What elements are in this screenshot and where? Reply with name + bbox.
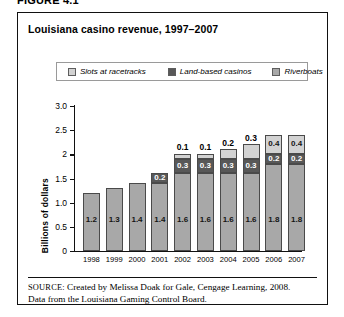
bar-segment-slots [243, 144, 260, 159]
bar-value-label: 1.8 [291, 216, 302, 224]
bar-stack: 1.40.2 [151, 173, 168, 250]
bar-stack: 1.2 [83, 193, 100, 251]
y-tick-label: 2 [62, 149, 67, 159]
bar-stack: 1.60.30.3 [243, 144, 260, 250]
x-tick-label: 2004 [217, 255, 240, 264]
bar-stack: 1.60.30.1 [197, 154, 214, 251]
source-prefix: SOURCE: [28, 283, 65, 292]
bar-segment-land: 0.2 [151, 173, 168, 183]
bar-value-label: 0.3 [200, 162, 211, 170]
bar-stack: 1.80.20.4 [265, 135, 282, 251]
bar-value-label: 1.2 [86, 216, 97, 224]
y-tick-label: 1.0 [55, 198, 67, 208]
bar-group: 1.21.31.41.40.21.60.30.11.60.30.11.60.30… [74, 106, 302, 251]
y-tick-label: 0.5 [55, 222, 67, 232]
bar-segment-riverboats: 1.4 [151, 183, 168, 251]
x-tick-label: 2006 [262, 255, 285, 264]
bar-stack: 1.3 [106, 188, 123, 251]
bar-total-top-label: 0.2 [220, 139, 237, 148]
legend-label-slots: Slots at racetracks [80, 67, 146, 76]
bar-segment-land: 0.3 [243, 159, 260, 174]
bar-segment-slots [197, 154, 214, 159]
bar-total-top-label: 0.3 [243, 134, 260, 143]
x-tick-label: 1998 [80, 255, 103, 264]
bar-stack: 1.80.20.4 [288, 135, 305, 251]
bar-segment-riverboats: 1.8 [265, 164, 282, 251]
bar-value-label: 1.3 [109, 216, 120, 224]
bar-value-label: 0.4 [291, 140, 302, 148]
bar-value-label: 0.3 [245, 162, 256, 170]
bar-value-label: 0.2 [268, 155, 279, 163]
bar-segment-riverboats: 1.2 [83, 193, 100, 251]
x-tick-label: 2001 [148, 255, 171, 264]
bar-total-top-label: 0.1 [197, 143, 214, 152]
legend-item-land-based-casinos: Land-based casinos [168, 67, 252, 76]
x-tick-label: 2002 [171, 255, 194, 264]
x-tick-label: 2007 [285, 255, 308, 264]
bar-segment-slots [220, 149, 237, 159]
bar-value-label: 1.4 [154, 216, 165, 224]
y-axis-title: Billions of dollars [40, 178, 50, 253]
bar-segment-slots [174, 154, 191, 159]
bar-segment-slots: 0.4 [288, 135, 305, 154]
bar-segment-riverboats: 1.3 [106, 188, 123, 251]
chart-legend: Slots at racetracks Land-based casinos R… [56, 62, 308, 81]
bar-stack: 1.60.30.1 [174, 154, 191, 251]
x-tick-label: 2000 [126, 255, 149, 264]
y-tick-label: 0 [62, 246, 67, 256]
bar-value-label: 0.2 [291, 155, 302, 163]
x-tick-label: 2005 [240, 255, 263, 264]
source-divider [28, 277, 317, 278]
figure-root: FIGURE 4.1 Louisiana casino revenue, 199… [0, 0, 344, 317]
bar-segment-land: 0.2 [265, 154, 282, 164]
bar-value-label: 1.6 [245, 216, 256, 224]
bar-value-label: 1.4 [131, 216, 142, 224]
bar-stack: 1.60.30.2 [220, 149, 237, 250]
bar-value-label: 1.6 [200, 216, 211, 224]
bar-value-label: 0.4 [268, 140, 279, 148]
figure-box: Louisiana casino revenue, 1997–2007 Slot… [17, 12, 328, 305]
y-tick-label: 2.5 [55, 125, 67, 135]
y-tick-label: 3.0 [55, 101, 67, 111]
legend-label-land: Land-based casinos [180, 67, 252, 76]
bar-stack: 1.4 [129, 183, 146, 251]
x-axis-line [74, 251, 302, 252]
legend-label-riverboats: Riverboats [284, 67, 322, 76]
legend-item-slots-at-racetracks: Slots at racetracks [68, 67, 146, 76]
bar-segment-riverboats: 1.8 [288, 164, 305, 251]
bar-segment-riverboats: 1.6 [220, 173, 237, 250]
bar-value-label: 0.2 [154, 174, 165, 182]
source-line-2: Data from the Louisiana Gaming Control B… [28, 294, 207, 304]
figure-caption: FIGURE 4.1 [17, 0, 79, 6]
x-tick-label: 1999 [103, 255, 126, 264]
legend-item-riverboats: Riverboats [272, 67, 322, 76]
bar-value-label: 0.3 [223, 162, 234, 170]
legend-swatch-slots-icon [68, 68, 76, 76]
x-axis-labels: 1998199920002001200220032004200520062007 [74, 255, 302, 267]
bar-segment-riverboats: 1.4 [129, 183, 146, 251]
bar-segment-slots: 0.4 [265, 135, 282, 154]
bar-value-label: 1.6 [177, 216, 188, 224]
bar-value-label: 1.8 [268, 216, 279, 224]
bar-value-label: 0.3 [177, 162, 188, 170]
y-tick-label: 1.5 [55, 174, 67, 184]
legend-swatch-land-icon [168, 68, 176, 76]
bar-segment-land: 0.2 [288, 154, 305, 164]
bar-segment-land: 0.3 [197, 159, 214, 174]
bar-segment-riverboats: 1.6 [197, 173, 214, 250]
source-note: SOURCE: Created by Melissa Doak for Gale… [28, 282, 320, 306]
bar-total-top-label: 0.1 [174, 143, 191, 152]
x-tick-label: 2003 [194, 255, 217, 264]
source-line-1: Created by Melissa Doak for Gale, Cengag… [65, 282, 291, 292]
legend-swatch-riverboats-icon [272, 68, 280, 76]
bar-segment-riverboats: 1.6 [243, 173, 260, 250]
y-tick [70, 251, 74, 252]
bar-segment-land: 0.3 [174, 159, 191, 174]
chart-title: Louisiana casino revenue, 1997–2007 [28, 23, 218, 35]
plot-area: 00.51.01.522.53.0 1.21.31.41.40.21.60.30… [74, 105, 302, 252]
bar-segment-riverboats: 1.6 [174, 173, 191, 250]
bar-segment-land: 0.3 [220, 159, 237, 174]
bar-value-label: 1.6 [223, 216, 234, 224]
